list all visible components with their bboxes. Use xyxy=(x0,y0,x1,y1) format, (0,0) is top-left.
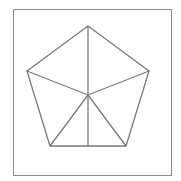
spoke-to-upper-right xyxy=(88,71,149,95)
spoke-group xyxy=(27,26,149,146)
pentagon-diagram xyxy=(0,0,181,181)
spoke-to-lower-left xyxy=(50,95,88,146)
diagram-group xyxy=(27,26,149,146)
spoke-to-upper-left xyxy=(27,71,88,95)
spoke-to-lower-right xyxy=(88,95,126,146)
figure-canvas xyxy=(0,0,181,181)
